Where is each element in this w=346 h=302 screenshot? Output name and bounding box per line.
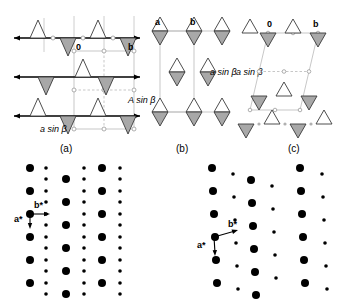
panel-a-guides	[44, 16, 134, 52]
panel-b-vertical-spacing-label: A sin β	[127, 95, 155, 105]
panel-c-spacing-label: a sin β	[210, 67, 237, 77]
panel-c-row-3	[238, 110, 332, 138]
panel-c-caption: (c)	[288, 143, 300, 154]
panel-a-spacing-label: a sin β	[40, 124, 67, 134]
panel-c-b-axis-label: b	[313, 19, 319, 29]
panel-b-caption: (b)	[176, 143, 188, 154]
crystallographic-figure: 0 b a sin β (a)	[0, 0, 346, 302]
diffraction-right-b-star-label: b*	[228, 219, 237, 229]
panel-a: 0 b a sin β (a)	[14, 16, 140, 154]
panel-b-b-axis-label: b	[190, 17, 196, 27]
diffraction-left-a-star-label: a*	[14, 214, 23, 224]
panel-b: a b A sin β a sin β (b)	[127, 17, 263, 154]
diffraction-right-spots	[208, 164, 329, 299]
diffraction-right-a-star-label: a*	[197, 240, 206, 250]
figure-canvas: 0 b a sin β (a)	[0, 0, 346, 302]
panel-b-row-3	[152, 98, 230, 126]
panel-c-origin-label: 0	[267, 19, 272, 29]
diffraction-pattern-right: b* a*	[197, 164, 329, 299]
panel-a-b-axis-label: b	[128, 42, 134, 52]
panel-c-row-2	[251, 82, 317, 110]
diffraction-left-spots	[26, 164, 122, 298]
panel-a-caption: (a)	[60, 143, 72, 154]
panel-b-row-2	[169, 58, 216, 86]
diffraction-pattern-left: b* a*	[14, 164, 122, 298]
diffraction-left-b-star-label: b*	[34, 200, 43, 210]
panel-a-origin-label: 0	[76, 42, 81, 52]
panel-c: 0 b a sin β (c)	[210, 19, 332, 154]
